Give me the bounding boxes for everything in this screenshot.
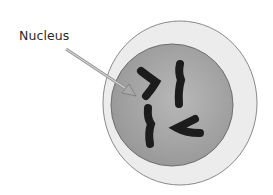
chromosome-3 <box>148 108 151 144</box>
chromosome-2 <box>179 64 181 104</box>
cell-diagram <box>0 0 273 195</box>
nucleus <box>111 44 233 166</box>
